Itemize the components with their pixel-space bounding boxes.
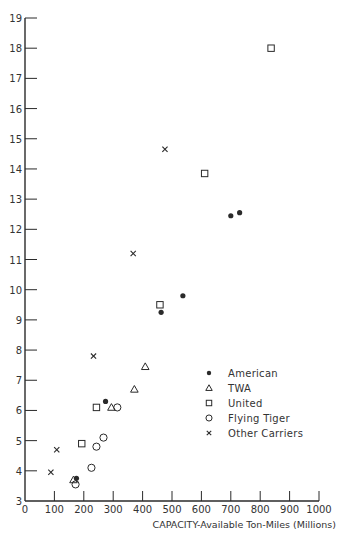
data-point	[103, 399, 108, 404]
square-icon	[206, 400, 211, 405]
data-point	[157, 302, 163, 308]
data-point	[114, 404, 121, 411]
y-tick-label: 7	[16, 375, 22, 386]
y-tick-label: 18	[9, 43, 22, 54]
series-other-carriers	[48, 147, 167, 475]
data-point	[88, 464, 95, 471]
data-point	[159, 310, 164, 315]
y-axis: 345678910111213141516171819	[9, 13, 37, 507]
y-tick-label: 9	[16, 315, 22, 326]
data-point	[72, 481, 79, 488]
triangle-icon	[206, 385, 212, 391]
data-point	[79, 440, 85, 446]
y-tick-label: 11	[9, 255, 22, 266]
data-point	[93, 404, 99, 410]
data-point	[162, 147, 167, 152]
x-axis-title: CAPACITY-Available Ton-Miles (Millions)	[153, 519, 336, 530]
data-point	[268, 45, 274, 51]
series-twa	[70, 363, 149, 483]
legend-label: TWA	[227, 383, 251, 394]
x-tick-label: 700	[221, 504, 240, 515]
legend-item: TWA	[206, 383, 251, 394]
y-tick-label: 8	[16, 345, 22, 356]
x-tick-label: 400	[133, 504, 152, 515]
legend-item: American	[207, 368, 278, 379]
legend-label: Other Carriers	[228, 428, 303, 439]
legend-item: Flying Tiger	[206, 413, 291, 424]
data-point	[141, 363, 149, 370]
y-tick-label: 10	[9, 285, 22, 296]
x-tick-label: 100	[45, 504, 64, 515]
data-point	[237, 210, 242, 215]
y-tick-label: 19	[9, 13, 22, 24]
series-flying-tiger	[72, 404, 121, 488]
y-tick-label: 14	[9, 164, 22, 175]
data-point	[180, 293, 185, 298]
series-american	[74, 210, 242, 481]
x-tick-label: 500	[162, 504, 181, 515]
y-tick-label: 6	[16, 405, 22, 416]
y-tick-label: 16	[9, 104, 22, 115]
x-axis: 01002003004005006007008009001000	[22, 491, 332, 515]
y-tick-label: 17	[9, 73, 22, 84]
y-tick-label: 15	[9, 134, 22, 145]
open-circle-icon	[206, 415, 212, 421]
data-point	[54, 447, 59, 452]
legend-label: United	[228, 398, 263, 409]
y-tick-label: 4	[16, 466, 22, 477]
x-tick-label: 900	[280, 504, 299, 515]
data-point	[131, 386, 139, 393]
data-point	[131, 251, 136, 256]
x-tick-label: 0	[22, 504, 28, 515]
data-point	[91, 354, 96, 359]
x-tick-label: 300	[104, 504, 123, 515]
legend-label: Flying Tiger	[228, 413, 290, 424]
legend-label: American	[228, 368, 278, 379]
y-tick-label: 13	[9, 194, 22, 205]
x-cross-icon	[207, 431, 211, 435]
y-tick-label: 12	[9, 224, 22, 235]
x-tick-label: 200	[74, 504, 93, 515]
legend-item: Other Carriers	[207, 428, 303, 439]
data-point	[93, 443, 100, 450]
scatter-chart: 345678910111213141516171819 010020030040…	[0, 0, 343, 537]
data-point	[100, 434, 107, 441]
x-tick-label: 1000	[306, 504, 331, 515]
data-point	[228, 213, 233, 218]
legend-item: United	[206, 398, 262, 409]
y-tick-label: 5	[16, 436, 22, 447]
x-tick-label: 600	[192, 504, 211, 515]
data-point	[48, 470, 53, 475]
filled-circle-icon	[207, 371, 211, 375]
x-tick-label: 800	[251, 504, 270, 515]
data-point	[201, 170, 207, 176]
legend: AmericanTWAUnitedFlying TigerOther Carri…	[206, 368, 303, 439]
